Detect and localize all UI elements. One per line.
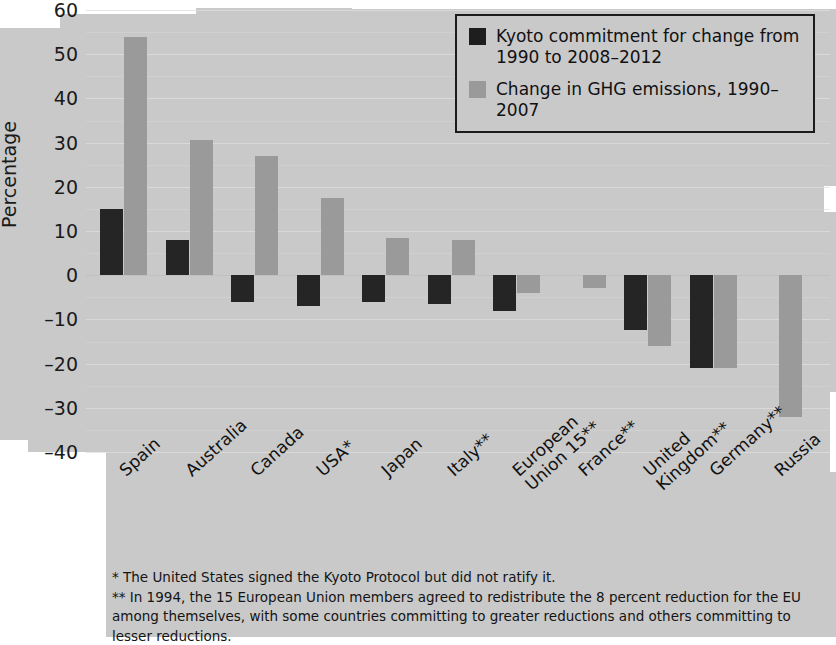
bar-ghg-change — [779, 275, 802, 416]
bar-ghg-change — [255, 156, 278, 275]
chart-footnotes: * The United States signed the Kyoto Pro… — [112, 568, 822, 645]
bar-ghg-change — [321, 198, 344, 275]
y-tick-label: 50 — [54, 43, 78, 65]
y-tick-label: –40 — [44, 441, 78, 463]
bar-ghg-change — [648, 275, 671, 346]
bar-group — [297, 10, 344, 452]
bar-ghg-change — [386, 238, 409, 276]
bar-kyoto-commitment — [624, 275, 647, 330]
bar-kyoto-commitment — [100, 209, 123, 275]
bar-ghg-change — [583, 275, 606, 288]
y-tick-label: 60 — [54, 0, 78, 21]
y-tick-label: –20 — [44, 353, 78, 375]
bar-ghg-change — [517, 275, 540, 293]
legend-label: Change in GHG emissions, 1990–2007 — [496, 79, 801, 122]
y-tick-label: 10 — [54, 220, 78, 242]
y-tick-label: 30 — [54, 132, 78, 154]
scan-edge-right-2 — [830, 392, 836, 472]
bar-ghg-change — [452, 240, 475, 275]
footnote: ** In 1994, the 15 European Union member… — [112, 588, 822, 645]
bar-group — [231, 10, 278, 452]
legend-swatch-kyoto — [469, 28, 486, 45]
bar-kyoto-commitment — [493, 275, 516, 310]
y-tick-label: –10 — [44, 308, 78, 330]
chart-legend: Kyoto commitment for change from 1990 to… — [455, 14, 815, 133]
scan-edge-bottom-left-2 — [0, 440, 28, 637]
legend-item: Kyoto commitment for change from 1990 to… — [469, 26, 801, 69]
bar-kyoto-commitment — [166, 240, 189, 275]
bar-kyoto-commitment — [231, 275, 254, 302]
bar-group — [166, 10, 213, 452]
y-tick-label: 0 — [66, 264, 78, 286]
legend-swatch-ghg — [469, 81, 486, 98]
y-tick-label: –30 — [44, 397, 78, 419]
legend-item: Change in GHG emissions, 1990–2007 — [469, 79, 801, 122]
footnote: * The United States signed the Kyoto Pro… — [112, 568, 822, 588]
bar-kyoto-commitment — [297, 275, 320, 306]
bar-group — [362, 10, 409, 452]
y-tick-label: 40 — [54, 87, 78, 109]
bar-group — [100, 10, 147, 452]
y-tick-label: 20 — [54, 176, 78, 198]
y-axis-ticks: 6050403020100–10–20–30–40 — [0, 10, 78, 452]
bar-kyoto-commitment — [362, 275, 385, 302]
bar-ghg-change — [714, 275, 737, 368]
bar-ghg-change — [124, 37, 147, 276]
scan-edge-top-right — [352, 0, 836, 9]
bar-kyoto-commitment — [428, 275, 451, 304]
bar-kyoto-commitment — [690, 275, 713, 368]
bar-ghg-change — [190, 140, 213, 275]
legend-label: Kyoto commitment for change from 1990 to… — [496, 26, 799, 69]
